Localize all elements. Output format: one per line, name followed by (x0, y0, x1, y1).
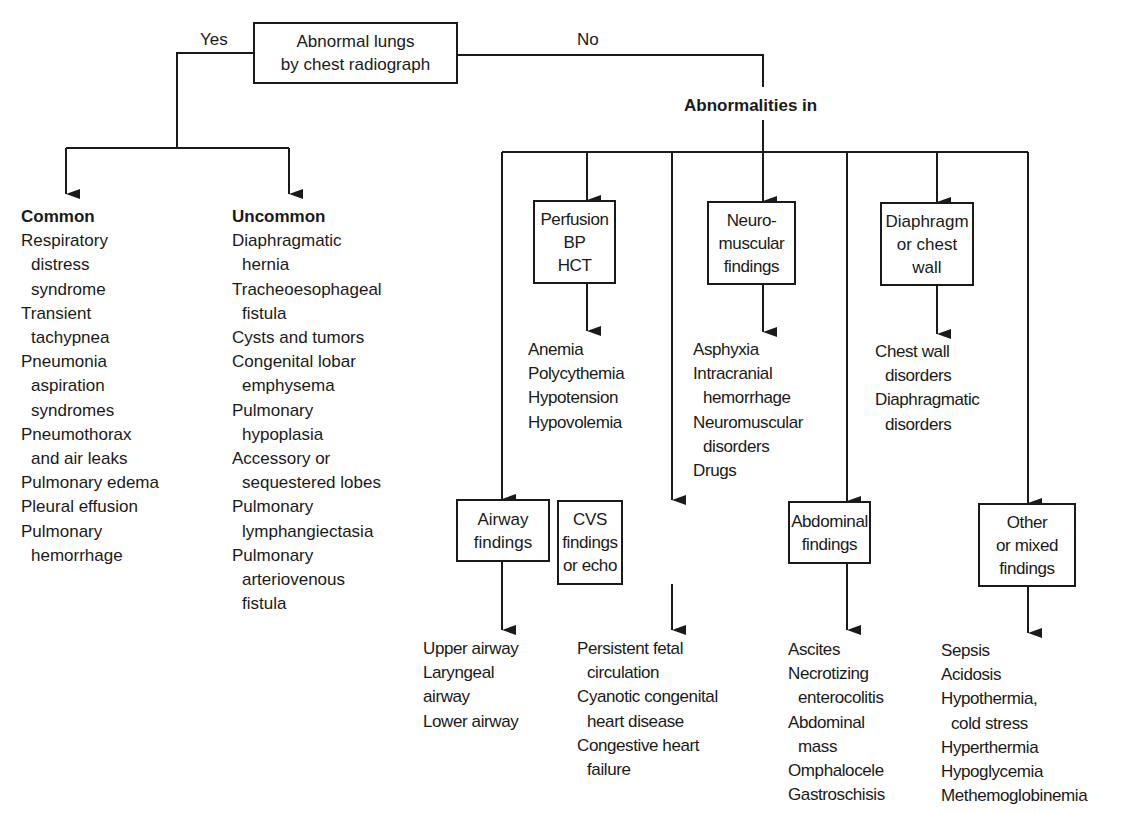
root-decision-box: Abnormal lungs by chest radiograph (253, 22, 458, 84)
list-item-text: Methemoglobinemia (941, 786, 1087, 805)
list-item: Sepsis (941, 639, 1087, 663)
neuromuscular-box-line: Neuro- (727, 209, 777, 232)
uncommon-causes-list: Uncommon DiaphragmaticherniaTracheoesoph… (232, 205, 382, 616)
list-item-text: Diaphragmatic (875, 390, 979, 409)
list-item-text: Hypovolemia (528, 413, 622, 432)
perfusion-box: Perfusion BP HCT (533, 200, 616, 284)
list-item-text: Pleural effusion (21, 497, 138, 516)
diaphragm-box-line: wall (912, 256, 941, 279)
list-item-text: Lower airway (423, 712, 518, 731)
cvs-list: Persistent fetalcirculationCyanotic cong… (577, 637, 718, 782)
airway-list: Upper airwayLaryngealairwayLower airway (423, 637, 518, 734)
list-item-text: Sepsis (941, 641, 990, 660)
list-item-text: Hyperthermia (941, 738, 1038, 757)
list-item-continuation: sequestered lobes (232, 471, 382, 495)
list-item-continuation: tachypnea (21, 326, 159, 350)
list-item: Chest walldisorders (875, 340, 979, 388)
neuromuscular-box-line: muscular (719, 232, 785, 255)
list-item-text: Diaphragmatic (232, 231, 342, 250)
diaphragm-box: Diaphragm or chest wall (880, 202, 974, 286)
no-label: No (577, 28, 599, 51)
list-item-text: Pulmonary (232, 401, 313, 420)
list-item-continuation: and air leaks (21, 447, 159, 471)
other-list: SepsisAcidosisHypothermia,cold stressHyp… (941, 639, 1087, 808)
airway-box: Airway findings (456, 499, 550, 562)
list-item-continuation: heart disease (577, 710, 718, 734)
diaphragm-list: Chest walldisordersDiaphragmaticdisorder… (875, 340, 979, 437)
neuromuscular-box-line: findings (724, 255, 779, 278)
list-item-continuation: hypoplasia (232, 423, 382, 447)
list-item: Anemia (528, 338, 624, 362)
list-item-text: Acidosis (941, 665, 1001, 684)
list-item: Pulmonaryarteriovenousfistula (232, 544, 382, 617)
list-item: Hyperthermia (941, 736, 1087, 760)
list-item: Lower airway (423, 710, 518, 734)
list-item: Acidosis (941, 663, 1087, 687)
list-item: Hypothermia,cold stress (941, 687, 1087, 735)
list-item-text: Congestive heart (577, 736, 699, 755)
list-item-continuation: circulation (577, 661, 718, 685)
root-label-line-1: Abnormal lungs (296, 30, 414, 53)
list-item: Intracranialhemorrhage (693, 362, 803, 410)
list-item-text: Pulmonary edema (21, 473, 159, 492)
diaphragm-box-line: or chest (897, 233, 957, 256)
list-item: Diaphragmaticdisorders (875, 388, 979, 436)
perfusion-box-line: HCT (558, 254, 592, 277)
list-item-text: Asphyxia (693, 340, 759, 359)
airway-box-line: Airway (477, 508, 528, 531)
abdominal-box-line: Abdominal (791, 510, 868, 533)
list-item-continuation: lymphangiectasia (232, 520, 382, 544)
list-item-text: Hypoglycemia (941, 762, 1043, 781)
list-item-continuation: enterocolitis (788, 686, 885, 710)
yes-label: Yes (200, 28, 228, 51)
list-item: Necrotizingenterocolitis (788, 662, 885, 710)
list-item-continuation: mass (788, 735, 885, 759)
list-item-continuation: syndromes (21, 399, 159, 423)
list-item: Pulmonaryhemorrhage (21, 520, 159, 568)
list-item-text: Pulmonary (21, 522, 102, 541)
list-item-text: Tracheoesophageal (232, 280, 382, 299)
airway-box-line: findings (474, 531, 533, 554)
list-item: Upper airway (423, 637, 518, 661)
other-box-line: or mixed (996, 534, 1058, 557)
list-item-text: Gastroschisis (788, 785, 885, 804)
other-box: Other or mixed findings (978, 503, 1076, 587)
list-item: Drugs (693, 459, 803, 483)
diaphragm-box-line: Diaphragm (885, 210, 968, 233)
list-item-text: Drugs (693, 461, 736, 480)
list-item-text: Laryngeal (423, 663, 494, 682)
common-heading: Common (21, 205, 159, 229)
list-item: Pulmonarylymphangiectasia (232, 495, 382, 543)
perfusion-box-line: Perfusion (540, 208, 608, 231)
list-item: Polycythemia (528, 362, 624, 386)
list-item: Omphalocele (788, 759, 885, 783)
perfusion-list: AnemiaPolycythemiaHypotensionHypovolemia (528, 338, 624, 435)
list-item: Methemoglobinemia (941, 784, 1087, 808)
uncommon-heading: Uncommon (232, 205, 382, 229)
cvs-box-line: or echo (563, 554, 617, 577)
list-item-text: airway (423, 687, 470, 706)
list-item: Pleural effusion (21, 495, 159, 519)
list-item-text: Abdominal (788, 713, 865, 732)
list-item: Cyanotic congenitalheart disease (577, 685, 718, 733)
list-item-text: Transient (21, 304, 91, 323)
list-item: Pulmonary edema (21, 471, 159, 495)
list-item: airway (423, 685, 518, 709)
other-box-line: Other (1007, 511, 1048, 534)
other-box-line: findings (999, 557, 1054, 580)
list-item: Hypotension (528, 386, 624, 410)
list-item-text: Cyanotic congenital (577, 687, 718, 706)
list-item-text: Congenital lobar (232, 352, 356, 371)
list-item-continuation: fistula (232, 302, 382, 326)
list-item-text: Hypothermia, (941, 689, 1037, 708)
list-item-text: Intracranial (693, 364, 772, 383)
list-item-continuation: hemorrhage (693, 386, 803, 410)
list-item-text: Pneumothorax (21, 425, 132, 444)
list-item-text: Necrotizing (788, 664, 869, 683)
list-item: Pneumothoraxand air leaks (21, 423, 159, 471)
list-item-continuation: arteriovenous (232, 568, 382, 592)
list-item-continuation: hernia (232, 253, 382, 277)
list-item: Gastroschisis (788, 783, 885, 807)
list-item-continuation: syndrome (21, 278, 159, 302)
list-item: Laryngeal (423, 661, 518, 685)
